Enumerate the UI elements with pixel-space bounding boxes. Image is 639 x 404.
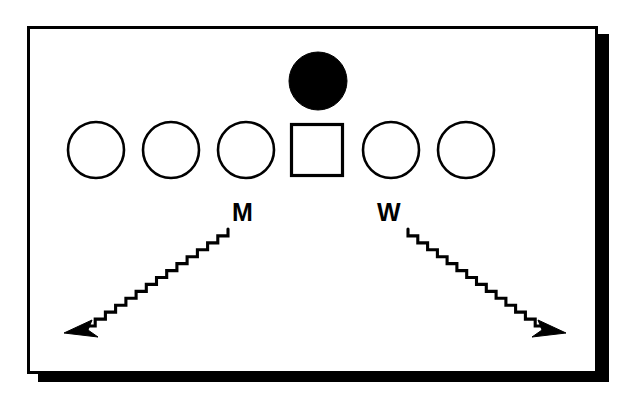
diagram-canvas [0,0,639,404]
zigzag-arrow-left-group[interactable] [64,229,228,337]
circle-symbol-2[interactable] [143,122,199,178]
circle-symbol-5[interactable] [363,122,419,178]
annotation-letter-m: M [232,200,253,225]
arrowhead-right [532,320,566,337]
filled-circle-top[interactable] [289,52,347,110]
square-symbol-4[interactable] [292,125,343,176]
annotation-letter-w: W [377,200,401,225]
zigzag-arrow-right-group[interactable] [408,229,566,337]
diagram-root: M W [0,0,639,404]
circle-symbol-1[interactable] [68,122,124,178]
zigzag-arrow-left[interactable] [85,229,228,326]
circle-symbol-3[interactable] [218,122,274,178]
arrowhead-left [64,320,98,337]
circle-symbol-6[interactable] [438,122,494,178]
zigzag-arrow-right[interactable] [408,229,545,326]
